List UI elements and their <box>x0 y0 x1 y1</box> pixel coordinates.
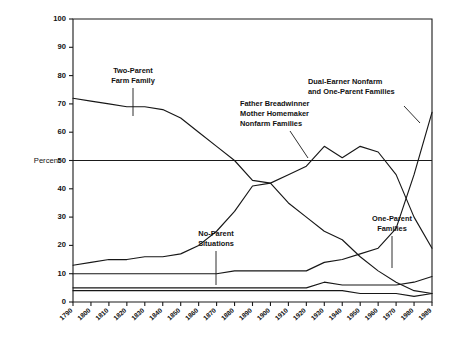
series-line-2 <box>73 112 432 273</box>
annotation-no-parent: No-Parent Situations <box>198 229 234 285</box>
x-tick-label-1830: 1830 <box>130 306 146 321</box>
x-tick-label-1840: 1840 <box>148 306 164 321</box>
y-tick-label-20: 20 <box>58 240 66 249</box>
leader-line-dual-earner <box>404 106 420 123</box>
annotation-two-parent-farm: Two-Parent Farm Family <box>111 66 155 116</box>
x-tick-label-1930: 1930 <box>309 306 325 321</box>
y-tick-label-40: 40 <box>58 184 66 193</box>
x-tick-label-1800: 1800 <box>76 306 92 321</box>
y-axis-ticks <box>69 19 73 302</box>
annotation-dual-earner-line1: Dual-Earner Nonfarm <box>308 77 383 86</box>
x-tick-label-1900: 1900 <box>256 306 272 321</box>
annotation-no-parent-line1: No-Parent <box>198 229 234 238</box>
y-tick-label-100: 100 <box>53 14 66 23</box>
y-tick-label-90: 90 <box>58 42 66 51</box>
y-tick-label-10: 10 <box>58 269 66 278</box>
x-tick-label-1860: 1860 <box>184 306 200 321</box>
x-axis-tick-labels: 1790180018101820183018401850186018701880… <box>58 306 433 321</box>
annotation-no-parent-line2: Situations <box>198 239 234 248</box>
chart-container: 0102030405060708090100 17901800181018201… <box>0 0 459 355</box>
annotation-one-parent-line1: One-Parent <box>372 214 412 223</box>
y-tick-label-60: 60 <box>58 127 66 136</box>
x-tick-label-1810: 1810 <box>94 306 110 321</box>
annotation-dual-earner-line2: and One-Parent Families <box>308 87 395 96</box>
x-axis-ticks <box>73 302 432 306</box>
annotation-two-parent-farm-line2: Farm Family <box>111 76 155 85</box>
y-tick-label-80: 80 <box>58 71 66 80</box>
leader-line-father-breadwinner <box>290 131 308 158</box>
series-line-4 <box>73 291 432 297</box>
x-tick-label-1870: 1870 <box>202 306 218 321</box>
line-chart: 0102030405060708090100 17901800181018201… <box>0 0 459 355</box>
x-tick-label-1850: 1850 <box>166 306 182 321</box>
annotation-father-breadwinner-line2: Mother Homemaker <box>240 109 309 118</box>
x-tick-label-1820: 1820 <box>112 306 128 321</box>
x-tick-label-1940: 1940 <box>327 306 343 321</box>
y-axis-title: Percent <box>34 156 61 165</box>
x-tick-label-1880: 1880 <box>220 306 236 321</box>
annotation-father-breadwinner-line1: Father Breadwinner <box>240 99 310 108</box>
x-tick-label-1980: 1980 <box>399 306 415 321</box>
x-tick-label-1960: 1960 <box>363 306 379 321</box>
annotation-father-breadwinner-line3: Nonfarm Families <box>240 119 302 128</box>
series-line-3 <box>73 277 432 288</box>
annotation-father-breadwinner: Father Breadwinner Mother Homemaker Nonf… <box>240 99 310 158</box>
y-tick-label-30: 30 <box>58 212 66 221</box>
x-tick-label-1989: 1989 <box>417 306 433 321</box>
y-tick-label-0: 0 <box>62 297 66 306</box>
x-tick-label-1950: 1950 <box>345 306 361 321</box>
x-tick-label-1970: 1970 <box>381 306 397 321</box>
annotation-two-parent-farm-line1: Two-Parent <box>113 66 153 75</box>
x-tick-label-1910: 1910 <box>273 306 289 321</box>
annotation-dual-earner: Dual-Earner Nonfarm and One-Parent Famil… <box>308 77 420 123</box>
annotation-one-parent-line2: Families <box>377 224 407 233</box>
x-tick-label-1920: 1920 <box>291 306 307 321</box>
annotation-one-parent: One-Parent Families <box>372 214 412 268</box>
y-tick-label-70: 70 <box>58 99 66 108</box>
x-tick-label-1790: 1790 <box>58 306 74 321</box>
x-tick-label-1890: 1890 <box>238 306 254 321</box>
